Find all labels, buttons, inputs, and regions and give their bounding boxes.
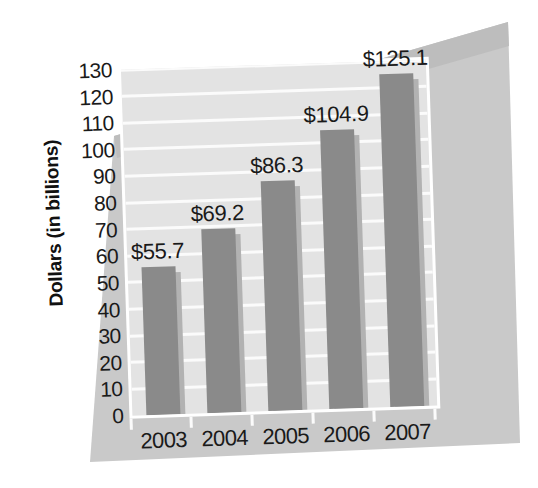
y-axis-tick-label: 10 — [100, 378, 123, 400]
y-axis-tick-labels: 1301201101009080706050403020100 — [52, 67, 124, 421]
bar — [260, 180, 302, 411]
bar — [201, 228, 241, 413]
bar-value-label: $69.2 — [190, 200, 244, 228]
bar — [379, 73, 424, 407]
chart-figure: Dollars (in billions) 130120110100908070… — [0, 0, 538, 488]
bar-body — [201, 228, 241, 413]
bar-body — [141, 266, 180, 415]
y-axis-tick-label: 50 — [96, 272, 119, 294]
chart-rotated-group: Dollars (in billions) 130120110100908070… — [0, 0, 538, 488]
x-axis-tick-label: 2007 — [367, 418, 448, 447]
y-axis-tick-label: 100 — [81, 139, 115, 161]
bar-value-label: $125.1 — [362, 45, 428, 73]
bar — [141, 266, 180, 415]
y-axis-tick-label: 20 — [99, 352, 122, 374]
y-axis-tick-label: 120 — [79, 86, 113, 108]
y-axis-tick-label: 40 — [97, 299, 120, 321]
y-axis-tick-label: 90 — [93, 166, 116, 188]
bar-value-label: $55.7 — [131, 238, 185, 266]
y-axis-tick-label: 30 — [98, 325, 121, 347]
y-axis-tick-label: 110 — [81, 112, 114, 134]
y-axis-tick-label: 60 — [95, 245, 118, 267]
y-axis-tick-label: 0 — [112, 405, 124, 426]
y-axis-tick-label: 80 — [94, 192, 117, 214]
bar-value-label: $104.9 — [303, 100, 369, 128]
y-axis-tick-label: 130 — [78, 59, 112, 81]
y-axis-tick-label: 70 — [95, 219, 118, 241]
bar-value-label: $86.3 — [250, 152, 304, 180]
bar — [320, 129, 363, 409]
